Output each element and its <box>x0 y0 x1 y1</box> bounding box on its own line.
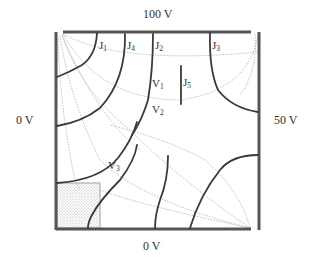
label-j4: J4 <box>127 39 135 53</box>
label-v1: V1 <box>152 77 164 91</box>
right-voltage-label: 50 V <box>274 113 298 127</box>
label-j3: J3 <box>212 39 220 53</box>
curve-j2 <box>132 34 153 135</box>
left-voltage-label: 0 V <box>16 113 34 127</box>
label-j5: J5 <box>183 76 191 90</box>
bottom-voltage-label: 0 V <box>143 239 161 253</box>
top-voltage-label: 100 V <box>143 7 173 21</box>
field-diagram: 100 V 0 V 50 V 0 V J1 J4 J2 J3 J5 V1 V2 … <box>0 0 314 261</box>
label-j2: J2 <box>155 39 163 53</box>
label-j1: J1 <box>99 39 107 53</box>
curve-middle <box>155 156 168 228</box>
shaded-block <box>57 183 100 228</box>
label-v2: V2 <box>152 103 164 117</box>
label-v3: V3 <box>108 159 120 173</box>
